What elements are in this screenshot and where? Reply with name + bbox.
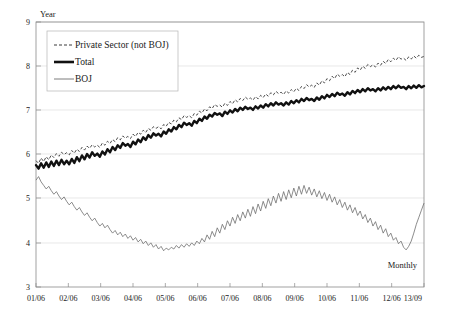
legend: Private Sector (not BOJ) Total BOJ (47, 31, 178, 91)
x-tick-label: 13/09 (404, 294, 422, 303)
x-tick-label: 05/06 (156, 294, 174, 303)
x-tick-labels: 01/0602/0603/0604/0605/0606/0607/0608/06… (27, 294, 422, 303)
x-tick-label: 09/06 (286, 294, 304, 303)
y-tick-label: 5 (26, 194, 30, 203)
legend-label-total: Total (75, 57, 95, 67)
frequency-note: Monthly (388, 260, 418, 270)
y-tick-label: 6 (26, 150, 30, 159)
x-tick-label: 10/06 (318, 294, 336, 303)
x-tick-label: 08/06 (253, 294, 271, 303)
x-tick-label: 01/06 (27, 294, 45, 303)
chart-container: 9 8 7 6 5 4 3 Year 01/0602/0603/0604/060… (0, 0, 453, 314)
legend-label-boj: BOJ (75, 74, 92, 84)
y-axis-ticks (36, 22, 41, 287)
series-line-boj (36, 177, 424, 251)
y-tick-label: 7 (26, 106, 30, 115)
x-tick-label: 02/06 (59, 294, 77, 303)
y-axis-unit-label: Year (40, 9, 56, 19)
x-tick-label: 07/06 (221, 294, 239, 303)
x-tick-label: 03/06 (92, 294, 110, 303)
x-tick-label: 06/06 (189, 294, 207, 303)
y-tick-labels: 9 8 7 6 5 4 3 (26, 18, 30, 292)
y-tick-label: 4 (26, 239, 30, 248)
y-tick-label: 3 (26, 283, 30, 292)
series-line-total (36, 85, 424, 168)
legend-label-private-sector: Private Sector (not BOJ) (75, 40, 169, 51)
x-axis-ticks (36, 283, 424, 287)
x-tick-label: 12/06 (383, 294, 401, 303)
line-chart: 9 8 7 6 5 4 3 Year 01/0602/0603/0604/060… (0, 0, 453, 314)
y-tick-label: 9 (26, 18, 30, 27)
y-tick-label: 8 (26, 62, 30, 71)
x-tick-label: 11/06 (350, 294, 368, 303)
x-tick-label: 04/06 (124, 294, 142, 303)
